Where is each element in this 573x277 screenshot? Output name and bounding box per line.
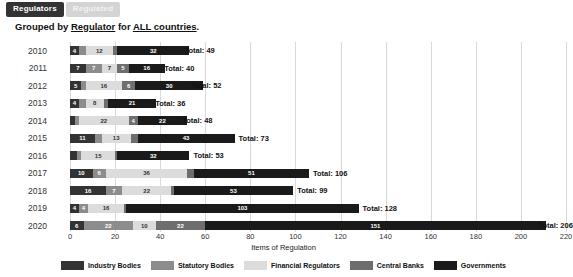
- bar-segment[interactable]: 16: [129, 64, 165, 73]
- bar-segment[interactable]: 7: [106, 186, 122, 195]
- bar-segment[interactable]: 11: [70, 134, 95, 143]
- legend-swatch: [350, 261, 373, 270]
- bar-segment[interactable]: 32: [117, 151, 189, 160]
- bar-total-label: Total: 40: [164, 65, 194, 73]
- x-axis-tick-label: 0: [68, 233, 72, 241]
- stacked-bar[interactable]: 4416103: [70, 204, 359, 213]
- bar-segment[interactable]: 22: [122, 186, 172, 195]
- bar-total-label: Total: 128: [363, 205, 397, 213]
- bar-segment[interactable]: 8: [86, 99, 104, 108]
- bar-segment[interactable]: 151: [205, 221, 545, 230]
- bar-segment[interactable]: 6: [93, 169, 107, 178]
- chart-bar-rows: 201041232Total: 492011777516Total: 40201…: [0, 40, 567, 236]
- y-axis-tick-label: 2016: [15, 152, 47, 161]
- y-axis-tick-label: 2015: [15, 134, 47, 143]
- stacked-bar[interactable]: 777516: [70, 64, 165, 73]
- title-groupby-link[interactable]: Regulator: [71, 21, 115, 32]
- legend-label: Financial Regulators: [271, 262, 340, 269]
- bar-segment[interactable]: 7: [70, 64, 86, 73]
- bar-segment[interactable]: 7: [102, 64, 118, 73]
- chart-row: 20134821Total: 36: [0, 95, 567, 113]
- bar-segment[interactable]: [70, 151, 77, 160]
- y-axis-tick-label: 2011: [15, 64, 47, 73]
- chart-row: 2012516630Total: 52: [0, 77, 567, 95]
- chart-row: 201041232Total: 49: [0, 42, 567, 60]
- stacked-bar[interactable]: 4821: [70, 99, 156, 108]
- legend-label: Statutory Bodies: [178, 262, 234, 269]
- bar-segment[interactable]: 16: [86, 81, 122, 90]
- bar-segment[interactable]: 22: [138, 116, 188, 125]
- legend-swatch: [244, 261, 267, 270]
- bar-segment[interactable]: [95, 134, 102, 143]
- bar-segment[interactable]: 4: [70, 46, 79, 55]
- tab-regulators[interactable]: Regulators: [6, 2, 64, 17]
- legend-label: Governments: [461, 262, 506, 269]
- stacked-bar[interactable]: 41232: [70, 46, 189, 55]
- bar-total-label: Total: 53: [193, 152, 223, 160]
- bar-segment[interactable]: 36: [106, 169, 187, 178]
- bar-segment[interactable]: 32: [117, 46, 189, 55]
- bar-segment[interactable]: [131, 134, 138, 143]
- chart-row: 201422422Total: 48: [0, 112, 567, 130]
- bar-segment[interactable]: 4: [70, 99, 79, 108]
- title-scope-link[interactable]: ALL countries: [133, 21, 197, 32]
- bar-segment[interactable]: 16: [70, 186, 106, 195]
- bar-total-label: Total: 49: [184, 47, 214, 55]
- x-axis-tick-label: 200: [515, 233, 528, 241]
- stacked-bar[interactable]: 1672253: [70, 186, 293, 195]
- bar-segment[interactable]: 4: [79, 204, 88, 213]
- legend-item[interactable]: Statutory Bodies: [151, 261, 234, 270]
- bar-segment[interactable]: 5: [70, 81, 81, 90]
- legend-item[interactable]: Industry Bodies: [61, 261, 141, 270]
- bar-segment[interactable]: 51: [194, 169, 309, 178]
- legend-label: Central Banks: [377, 262, 424, 269]
- bar-segment[interactable]: 53: [174, 186, 293, 195]
- stacked-bar[interactable]: 6221022151: [70, 221, 546, 230]
- bar-segment[interactable]: 6: [70, 221, 84, 230]
- x-axis-tick-label: 160: [424, 233, 437, 241]
- bar-segment[interactable]: [187, 169, 194, 178]
- bar-segment[interactable]: 4: [129, 116, 138, 125]
- bar-segment[interactable]: 22: [156, 221, 206, 230]
- bar-segment[interactable]: 103: [126, 204, 358, 213]
- legend-item[interactable]: Financial Regulators: [244, 261, 340, 270]
- view-tabs[interactable]: Regulators Regulated: [6, 2, 120, 17]
- chart-legend: Industry BodiesStatutory BodiesFinancial…: [0, 258, 567, 272]
- bar-segment[interactable]: 6: [122, 81, 136, 90]
- bar-segment[interactable]: 22: [84, 221, 134, 230]
- stacked-bar[interactable]: 1063651: [70, 169, 309, 178]
- bar-segment[interactable]: 22: [79, 116, 129, 125]
- bar-segment[interactable]: [79, 46, 86, 55]
- bar-total-label: Total: 106: [313, 170, 347, 178]
- chart-row: 20171063651Total: 106: [0, 165, 567, 183]
- bar-segment[interactable]: 13: [102, 134, 131, 143]
- x-axis-tick-label: 180: [470, 233, 483, 241]
- bar-segment[interactable]: 5: [117, 64, 128, 73]
- bar-segment[interactable]: 10: [133, 221, 156, 230]
- tab-regulated[interactable]: Regulated: [66, 2, 120, 17]
- x-axis-label: Items of Regulation: [0, 244, 567, 252]
- bar-segment[interactable]: 43: [138, 134, 235, 143]
- bar-segment[interactable]: 12: [86, 46, 113, 55]
- bar-segment[interactable]: 16: [88, 204, 124, 213]
- stacked-bar[interactable]: 22422: [70, 116, 187, 125]
- x-axis-tick-label: 100: [289, 233, 302, 241]
- stacked-bar[interactable]: 1532: [70, 151, 189, 160]
- bar-segment[interactable]: 21: [108, 99, 155, 108]
- x-axis-tick-label: 120: [334, 233, 347, 241]
- bar-segment[interactable]: 4: [70, 204, 79, 213]
- title-middle: for: [115, 21, 133, 32]
- bar-segment[interactable]: 10: [70, 169, 93, 178]
- bar-total-label: Total: 206: [538, 222, 572, 230]
- legend-item[interactable]: Central Banks: [350, 261, 424, 270]
- legend-item[interactable]: Governments: [434, 261, 506, 270]
- chart-row: 2015111343Total: 73: [0, 130, 567, 148]
- bar-segment[interactable]: [79, 99, 86, 108]
- bar-segment[interactable]: 15: [81, 151, 115, 160]
- stacked-bar[interactable]: 516630: [70, 81, 203, 90]
- bar-total-label: Total: 48: [182, 117, 212, 125]
- bar-segment[interactable]: 7: [86, 64, 102, 73]
- stacked-bar[interactable]: 111343: [70, 134, 235, 143]
- title-suffix: .: [197, 21, 200, 32]
- y-axis-tick-label: 2010: [15, 47, 47, 56]
